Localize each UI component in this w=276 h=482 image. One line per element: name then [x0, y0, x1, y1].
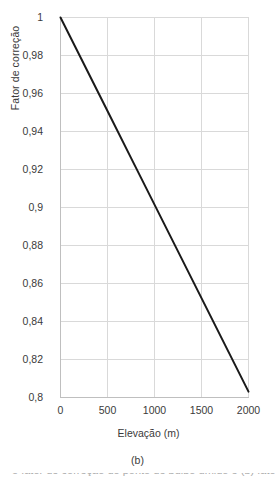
cropped-body-text-line: o fator de correção do ponto de bulbo úm…: [12, 473, 275, 476]
x-tick-label: 2000: [219, 405, 276, 416]
x-axis-tick-labels: 0500100015002000: [0, 0, 275, 482]
cropped-body-text: o fator de correção do ponto de bulbo úm…: [0, 473, 275, 482]
x-axis-title: Elevação (m): [0, 427, 275, 439]
figure-caption: (b): [0, 454, 275, 466]
figure-panel: Fator de correção 0,80,820,840,860,880,9…: [0, 0, 275, 482]
